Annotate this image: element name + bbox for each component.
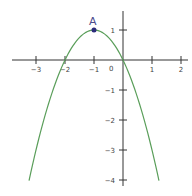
y-tick-label: −4 (105, 177, 116, 185)
y-tick-label: −3 (105, 147, 115, 155)
x-tick-label: 1 (150, 66, 154, 74)
parabola-curve (29, 30, 159, 181)
y-ticks: 1−1−2−3−4 (105, 27, 127, 185)
x-tick-label: −3 (31, 66, 41, 74)
y-tick-label: −2 (105, 117, 115, 125)
x-ticks: −3−2−112 (31, 56, 183, 74)
axes (12, 11, 188, 186)
point-a-marker (92, 28, 97, 33)
y-tick-label: 1 (111, 27, 115, 35)
origin-label: 0 (109, 65, 113, 73)
point-a-label: A (89, 15, 97, 28)
y-tick-label: −1 (105, 87, 115, 95)
parabola-chart: −3−2−112 1−1−2−3−4 0 A (0, 0, 192, 196)
x-tick-label: −1 (89, 66, 99, 74)
x-tick-label: 2 (179, 66, 183, 74)
